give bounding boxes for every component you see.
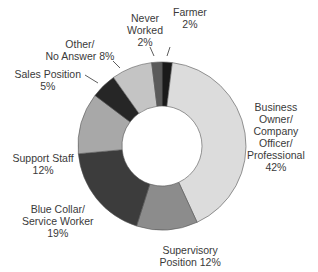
arrow-farmer [167, 47, 170, 56]
label-2: Supervisory Position 12% [160, 244, 221, 268]
arrow-other [113, 61, 120, 68]
arrow-sales [85, 75, 98, 83]
label-1: Business Owner/ Company Officer/ Profess… [247, 101, 305, 173]
label-6: Other/ No Answer 8% [46, 38, 115, 62]
label-7: Never Worked 2% [127, 12, 163, 48]
label-5: Sales Position 5% [15, 68, 82, 92]
label-4: Support Staff 12% [13, 152, 74, 176]
label-3: Blue Collar/ Service Worker 19% [22, 203, 94, 239]
label-0: Farmer 2% [173, 6, 207, 30]
donut-slices [78, 62, 246, 230]
arrow-never-worked [150, 47, 154, 56]
